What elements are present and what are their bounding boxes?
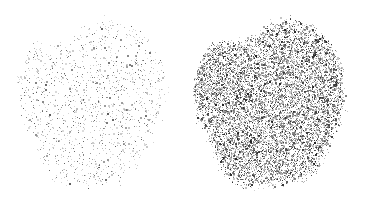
stipple-figure [0,0,377,211]
point-cloud-canvas [0,0,377,211]
